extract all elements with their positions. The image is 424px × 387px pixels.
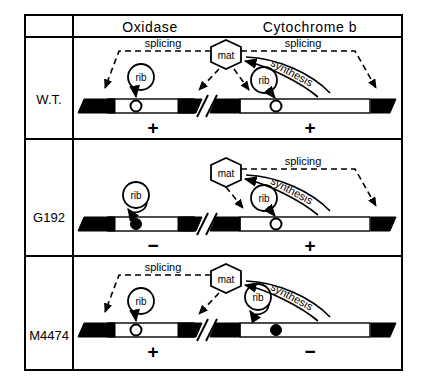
exon-block-left [78, 217, 115, 231]
splicing-path-oxidase-wt: splicing [105, 37, 211, 88]
sign-oxidase-wt: + [147, 117, 158, 138]
mat-node-label-m4474: mat [218, 274, 235, 285]
marker-oxidase-m4474 [131, 325, 142, 336]
rib-label-oxidase-wt: rib [135, 72, 147, 83]
row-label-wt: W.T. [36, 92, 61, 107]
gene-bar-oxidase-g192 [78, 217, 202, 231]
sign-cytb-m4474: − [304, 341, 315, 362]
rib-node-cytb-wt: rib [251, 67, 277, 98]
marker-oxidase-wt [131, 101, 142, 112]
header-oxidase: Oxidase [122, 19, 178, 35]
sign-oxidase-g192: − [147, 235, 158, 256]
rib-label-oxidase-g192: rib [130, 190, 142, 201]
sign-cytb-wt: + [304, 117, 315, 138]
splicing-label-cytb-g192: splicing [285, 155, 322, 167]
rib-node-oxidase-m4474: rib [128, 288, 154, 321]
gene-bar-oxidase-m4474 [78, 323, 202, 337]
row-label-m4474: M4474 [29, 328, 69, 343]
header-cytochrome-b: Cytochrome b [263, 19, 357, 35]
gene-bar-cytb-wt [210, 99, 396, 113]
rib-node-oxidase-g192: rib [123, 182, 149, 212]
gene-bar-oxidase-wt [78, 99, 202, 113]
splicing-label-cytb-wt: splicing [285, 37, 322, 49]
marker-oxidase-g192 [131, 219, 142, 230]
splicing-label-oxidase-m4474: splicing [145, 261, 182, 273]
rib-node-oxidase-wt: rib [128, 64, 154, 97]
gene-bar-cytb-g192 [210, 217, 396, 231]
exon-block-right [371, 99, 396, 113]
rib-label-cytb-g192: rib [258, 193, 270, 204]
sign-cytb-g192: + [304, 235, 315, 256]
sign-oxidase-m4474: + [147, 341, 158, 362]
gene-expression-diagram: Oxidase Cytochrome b W.T. G192 M4474 [0, 0, 424, 387]
splicing-path-oxidase-m4474: splicing [105, 261, 211, 312]
marker-cytb-m4474 [271, 325, 282, 336]
marker-cytb-g192 [271, 219, 282, 230]
mat-legs-wt [199, 69, 249, 90]
mat-legs-m4474 [199, 293, 219, 314]
rib-label-cytb-m4474: rib [252, 292, 264, 303]
marker-cytb-wt [271, 101, 282, 112]
mat-node-label-g192: mat [218, 168, 235, 179]
exon-block-left [78, 99, 115, 113]
rib-label-oxidase-m4474: rib [135, 296, 147, 307]
rib-label-cytb-wt: rib [258, 75, 270, 86]
gene-bar-cytb-m4474 [210, 323, 396, 337]
mat-node-wt: mat [211, 40, 241, 69]
splicing-label-oxidase-wt: splicing [145, 37, 182, 49]
table-frame [25, 15, 402, 370]
row-m4474: mat splicing rib rib synthesis + − [78, 261, 396, 362]
row-label-g192: G192 [33, 210, 65, 225]
row-g192: mat splicing rib rib synthesis − + [78, 155, 396, 256]
mat-node-g192: mat [211, 158, 241, 187]
mat-node-m4474: mat [211, 264, 241, 293]
mat-legs-g192 [226, 187, 243, 208]
exon-block-right [371, 217, 396, 231]
row-wt: mat splicing splicing rib rib [78, 37, 396, 138]
exon-block-right [371, 323, 396, 337]
figure-root: Oxidase Cytochrome b W.T. G192 M4474 [0, 0, 424, 387]
exon-block-left [78, 323, 115, 337]
mat-node-label-wt: mat [218, 50, 235, 61]
rib-node-cytb-g192: rib [251, 185, 277, 216]
